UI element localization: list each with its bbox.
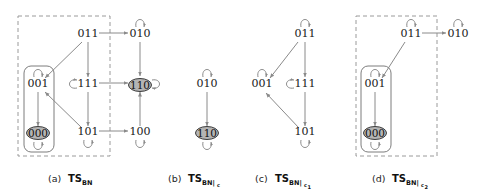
loop-b-010	[203, 70, 211, 78]
loop-c-001	[258, 70, 266, 78]
edge-a-011-001	[45, 42, 82, 78]
caption-a-ts: TS	[68, 173, 82, 184]
loop-a-010	[136, 20, 144, 28]
node-c-101[interactable]: 101	[295, 125, 316, 138]
node-a-011[interactable]: 011	[78, 27, 99, 40]
loop-d-010	[454, 20, 462, 28]
caption-a-prefix: (a)	[48, 173, 61, 184]
caption-b-sub: BN|	[202, 179, 215, 187]
node-a-100[interactable]: 100	[130, 125, 151, 138]
caption-d-sub: BN|	[406, 179, 419, 187]
loop-b-110	[203, 142, 211, 150]
loop-d-001	[371, 70, 379, 78]
loop-d-000	[371, 142, 379, 150]
caption-b-sub2: c	[217, 182, 220, 188]
node-a-110[interactable]: 110	[130, 79, 150, 91]
node-c-011[interactable]: 011	[295, 27, 316, 40]
caption-c-prefix: (c)	[255, 173, 268, 184]
figure-canvas: 011 010 001 111 110 000 101 100 010 110	[0, 0, 484, 195]
node-d-000[interactable]: 000	[365, 127, 385, 139]
node-b-110[interactable]: 110	[197, 127, 217, 139]
edge-c-101-001	[266, 93, 299, 128]
loop-c-111	[287, 80, 295, 88]
node-b-010[interactable]: 010	[197, 77, 218, 90]
loop-a-101	[84, 140, 92, 148]
caption-d-sub3: 2	[425, 184, 429, 190]
panel-c: 011 001 111 101	[252, 20, 316, 148]
loop-a-111	[70, 80, 78, 88]
caption-c-sub3: 1	[308, 184, 312, 190]
caption-b-ts: TS	[188, 173, 202, 184]
loop-a-001	[34, 70, 42, 78]
node-d-010[interactable]: 010	[448, 27, 469, 40]
captions: (a) TS BN (b) TS BN| c (c) TS BN| c 1 (d…	[48, 173, 429, 190]
caption-c-sub: BN|	[289, 179, 302, 187]
node-a-111[interactable]: 111	[78, 77, 99, 90]
panel-a: 011 010 001 111 110 000 101 100	[18, 16, 160, 156]
node-a-101[interactable]: 101	[78, 125, 99, 138]
edge-a-101-001	[45, 92, 82, 128]
caption-c-ts: TS	[275, 173, 289, 184]
edge-d-011-001	[382, 42, 405, 78]
node-a-001[interactable]: 001	[28, 77, 49, 90]
caption-d-prefix: (d)	[372, 173, 385, 184]
loop-c-011	[301, 20, 309, 28]
node-d-001[interactable]: 001	[365, 77, 386, 90]
node-a-010[interactable]: 010	[130, 27, 151, 40]
loop-c-101	[301, 140, 309, 148]
loop-d-011	[407, 20, 415, 28]
loop-a-000	[34, 142, 42, 150]
loop-a-110	[152, 80, 160, 88]
node-c-111[interactable]: 111	[295, 77, 316, 90]
caption-d-ts: TS	[392, 173, 406, 184]
edge-c-011-001	[270, 42, 298, 78]
loop-a-100	[136, 140, 144, 148]
caption-a-sub: BN	[82, 179, 92, 187]
figure-transition-systems: 011 010 001 111 110 000 101 100 010 110	[0, 0, 484, 195]
node-c-001[interactable]: 001	[252, 77, 273, 90]
node-d-011[interactable]: 011	[401, 27, 422, 40]
node-a-000[interactable]: 000	[28, 127, 48, 139]
panel-d: 011 010 001 000	[356, 16, 469, 156]
caption-b-prefix: (b)	[168, 173, 181, 184]
panel-b: 010 110	[196, 70, 219, 150]
